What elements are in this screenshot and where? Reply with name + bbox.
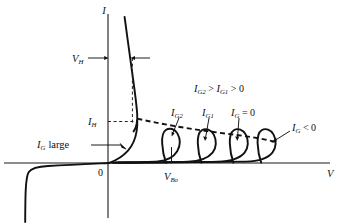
ig-negative-label: IG< 0 [291,122,316,134]
iv-characteristic-figure: I V 0 VH IH IG2>IG1>0 IG2 IG1 IG= 0 [0,0,346,224]
ig-zero-label: IG= 0 [230,107,255,119]
origin-label: 0 [98,167,103,178]
iv-chart-svg: I V 0 VH IH IG2>IG1>0 IG2 IG1 IG= 0 [0,0,346,224]
y-axis-label: I [101,5,106,16]
